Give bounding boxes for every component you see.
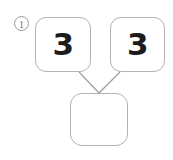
number-box-addend-right[interactable]: 3 [110,17,165,72]
number-box-addend-left[interactable]: 3 [35,17,91,72]
addend-right-value: 3 [127,29,148,60]
connector-right-to-sum [99,72,120,93]
worksheet-canvas: 1 3 3 [0,0,173,160]
addend-left-value: 3 [52,29,73,60]
connector-left-to-sum [79,72,99,93]
number-box-sum-empty[interactable] [70,93,128,146]
problem-number-marker: 1 [14,16,29,31]
